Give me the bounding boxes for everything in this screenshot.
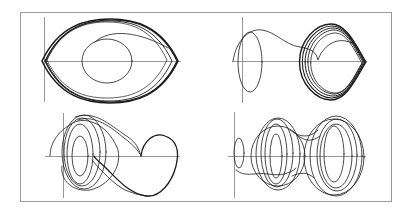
phase-portrait-figure <box>0 0 408 213</box>
trajectory-limit-cycle-3 <box>46 21 172 101</box>
trajectory-transient <box>233 30 352 61</box>
trajectory-left-loop-4 <box>256 118 300 190</box>
trajectory-loop-1 <box>72 136 88 176</box>
trajectory-right-loop-4 <box>310 116 362 196</box>
trajectory-limit-cycle-3 <box>305 28 364 96</box>
trajectory-transient-arc <box>95 33 168 48</box>
trajectory-loop-2 <box>67 124 93 184</box>
trajectory-right-loop-1 <box>324 126 344 182</box>
trajectory-limit-cycle-4 <box>308 30 363 94</box>
trajectory-right-loop-5 <box>304 119 364 195</box>
panel-bottom-left <box>45 113 180 198</box>
panel-top-right <box>232 17 367 103</box>
trajectory-small-loop <box>238 32 262 92</box>
trajectory-inner-loop <box>82 39 132 83</box>
trajectory-limit-cycle-2 <box>302 26 365 98</box>
trajectory-bridge-upper <box>75 115 141 156</box>
panel-bottom-right <box>228 112 366 198</box>
trajectory-right-loop-2 <box>320 124 352 188</box>
trajectory-limit-cycle-1 <box>42 19 178 103</box>
trajectory-cross-lower <box>92 160 150 196</box>
trajectory-right-loop-3 <box>317 119 357 191</box>
panel-top-left <box>42 17 181 103</box>
trajectory-outer-left <box>50 120 119 190</box>
trajectory-tail <box>236 168 296 175</box>
trajectory-left-loop-1 <box>270 134 282 178</box>
trajectory-limit-cycle-1 <box>300 24 367 100</box>
trajectory-small-loop <box>234 138 244 168</box>
